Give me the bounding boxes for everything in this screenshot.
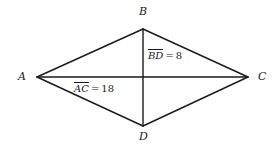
- segment-name-ac: AC: [74, 82, 89, 94]
- diagonal-bd-measure: BD=8: [148, 49, 182, 61]
- vertex-label-D: D: [139, 131, 148, 142]
- edge-ab: [37, 29, 143, 77]
- edge-cd: [143, 77, 248, 126]
- vertex-label-C: C: [258, 71, 266, 82]
- equals-sign-ac: =: [89, 83, 101, 94]
- measure-value-ac: 18: [101, 83, 114, 94]
- rhombus-drawing: [0, 0, 275, 148]
- vertex-label-A: A: [18, 71, 26, 82]
- measure-value-bd: 8: [176, 50, 182, 61]
- equals-sign-bd: =: [163, 50, 175, 61]
- segment-name-bd: BD: [148, 49, 163, 61]
- geometry-figure: B A C D BD=8 AC=18: [0, 0, 275, 148]
- vertex-label-B: B: [139, 6, 147, 17]
- diagonal-ac-measure: AC=18: [74, 82, 114, 94]
